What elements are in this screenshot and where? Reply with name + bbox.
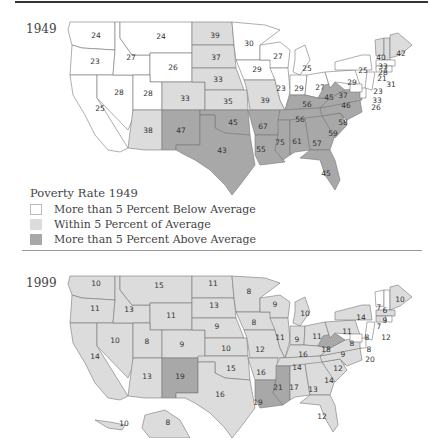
svg-text:39: 39 <box>260 96 270 105</box>
svg-text:8: 8 <box>367 345 372 354</box>
legend-item-within: Within 5 Percent of Average <box>30 217 256 232</box>
legend-item-below: More than 5 Percent Below Average <box>30 202 256 217</box>
svg-text:23: 23 <box>90 57 100 66</box>
svg-text:7: 7 <box>377 303 382 312</box>
svg-text:31: 31 <box>386 80 396 89</box>
us-map-1999: 10 11 14 10 13 15 11 8 13 9 19 11 13 9 1… <box>0 254 443 438</box>
svg-text:12: 12 <box>333 364 343 373</box>
svg-text:24: 24 <box>91 31 101 40</box>
legend-1949: Poverty Rate 1949 More than 5 Percent Be… <box>30 186 256 247</box>
svg-text:10: 10 <box>110 336 120 345</box>
svg-text:29: 29 <box>294 84 304 93</box>
legend-swatch-within <box>30 219 42 230</box>
svg-text:9: 9 <box>180 340 185 349</box>
svg-text:9: 9 <box>295 335 300 344</box>
svg-text:21: 21 <box>273 383 283 392</box>
section-divider <box>22 250 422 251</box>
svg-text:45: 45 <box>321 169 331 178</box>
svg-text:10: 10 <box>91 279 101 288</box>
svg-text:25: 25 <box>95 104 105 113</box>
svg-text:20: 20 <box>365 355 375 364</box>
svg-text:19: 19 <box>175 372 185 381</box>
svg-text:67: 67 <box>258 122 268 131</box>
svg-text:7: 7 <box>377 322 382 331</box>
svg-text:26: 26 <box>168 63 178 72</box>
svg-text:27: 27 <box>315 83 325 92</box>
svg-text:9: 9 <box>341 350 346 359</box>
svg-text:16: 16 <box>215 390 225 399</box>
svg-text:28: 28 <box>143 89 153 98</box>
svg-text:39: 39 <box>210 31 220 40</box>
svg-text:61: 61 <box>292 137 302 146</box>
svg-text:30: 30 <box>244 39 254 48</box>
svg-text:8: 8 <box>145 337 150 346</box>
svg-text:25: 25 <box>302 64 312 73</box>
svg-text:11: 11 <box>312 332 322 341</box>
svg-text:26: 26 <box>371 103 381 112</box>
svg-text:37: 37 <box>338 91 348 100</box>
svg-text:59: 59 <box>328 129 338 138</box>
svg-text:42: 42 <box>396 49 406 58</box>
svg-text:11: 11 <box>166 311 176 320</box>
svg-text:14: 14 <box>324 376 334 385</box>
svg-text:12: 12 <box>381 333 391 342</box>
svg-text:58: 58 <box>338 118 348 127</box>
state-NY <box>335 305 372 320</box>
svg-text:15: 15 <box>154 281 164 290</box>
svg-text:19: 19 <box>253 398 263 407</box>
svg-text:13: 13 <box>209 301 219 310</box>
svg-text:29: 29 <box>347 78 357 87</box>
svg-text:25: 25 <box>358 66 368 75</box>
states-1999 <box>68 276 412 438</box>
svg-text:6: 6 <box>383 306 388 315</box>
states-1949 <box>68 22 412 195</box>
svg-text:15: 15 <box>226 364 236 373</box>
svg-text:13: 13 <box>308 385 318 394</box>
svg-text:55: 55 <box>256 145 266 154</box>
svg-text:11: 11 <box>275 333 285 342</box>
svg-text:23: 23 <box>373 87 383 96</box>
svg-text:12: 12 <box>255 345 265 354</box>
svg-text:40: 40 <box>376 53 386 62</box>
legend-swatch-below <box>30 204 42 215</box>
svg-text:14: 14 <box>292 363 302 372</box>
svg-text:8: 8 <box>252 318 257 327</box>
svg-text:8: 8 <box>166 418 171 427</box>
svg-text:18: 18 <box>321 345 331 354</box>
svg-text:10: 10 <box>395 295 405 304</box>
legend-item-above: More than 5 Percent Above Average <box>30 232 256 247</box>
svg-text:10: 10 <box>221 344 231 353</box>
svg-text:14: 14 <box>356 313 366 322</box>
svg-text:29: 29 <box>252 65 262 74</box>
svg-text:11: 11 <box>208 279 218 288</box>
svg-text:23: 23 <box>276 84 286 93</box>
state-FL <box>300 150 340 190</box>
svg-text:33: 33 <box>213 75 223 84</box>
svg-text:47: 47 <box>176 126 186 135</box>
legend-title: Poverty Rate 1949 <box>30 186 256 200</box>
svg-text:9: 9 <box>383 316 388 325</box>
svg-text:28: 28 <box>114 88 124 97</box>
svg-text:16: 16 <box>256 368 266 377</box>
svg-text:27: 27 <box>126 53 136 62</box>
svg-text:16: 16 <box>298 350 308 359</box>
svg-text:43: 43 <box>217 146 227 155</box>
svg-text:10: 10 <box>119 419 129 428</box>
svg-text:38: 38 <box>143 126 153 135</box>
svg-text:56: 56 <box>295 115 305 124</box>
svg-text:56: 56 <box>302 100 312 109</box>
svg-text:27: 27 <box>273 52 283 61</box>
svg-text:12: 12 <box>317 412 327 421</box>
svg-text:24: 24 <box>156 32 166 41</box>
legend-swatch-above <box>30 234 42 245</box>
svg-text:9: 9 <box>273 300 278 309</box>
svg-text:8: 8 <box>350 339 355 348</box>
svg-text:11: 11 <box>342 327 352 336</box>
svg-text:13: 13 <box>142 372 152 381</box>
svg-text:8: 8 <box>247 287 252 296</box>
svg-text:11: 11 <box>90 304 100 313</box>
svg-text:9: 9 <box>215 322 220 331</box>
svg-text:75: 75 <box>275 138 285 147</box>
svg-text:37: 37 <box>211 53 221 62</box>
svg-text:33: 33 <box>180 94 190 103</box>
